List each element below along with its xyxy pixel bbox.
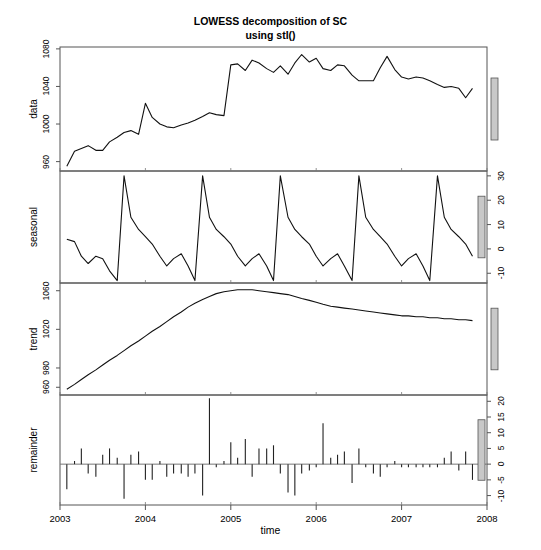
y-tick-label-remainder: 10 — [496, 428, 506, 437]
x-tick-label: 2004 — [135, 513, 156, 524]
y-tick-label-seasonal: 30 — [496, 171, 506, 180]
scale-reference-bar-remainder — [478, 420, 485, 481]
stl-decomposition-figure: LOWESS decomposition of SC using stl() t… — [0, 0, 541, 550]
y-tick-label-remainder: 15 — [496, 412, 506, 421]
y-tick-label-trend: 980 — [41, 361, 51, 375]
y-tick-label-seasonal: 20 — [496, 195, 506, 204]
y-tick-label-data: 1000 — [41, 115, 51, 134]
y-tick-label-seasonal: 0 — [496, 247, 506, 252]
x-tick-label: 2007 — [391, 513, 412, 524]
series-line-trend — [67, 290, 473, 389]
panel-label-seasonal: seasonal — [28, 207, 39, 247]
x-tick-label: 2006 — [306, 513, 327, 524]
scale-reference-bar-data — [491, 78, 498, 140]
panel-frame-trend — [60, 283, 487, 395]
y-tick-label-trend: 1020 — [41, 320, 51, 339]
x-tick-label: 2008 — [476, 513, 497, 524]
x-tick-label: 2003 — [49, 513, 70, 524]
y-tick-label-remainder: 20 — [496, 397, 506, 406]
y-tick-label-trend: 960 — [41, 380, 51, 394]
panel-label-data: data — [28, 99, 39, 118]
y-tick-label-data: 1040 — [41, 77, 51, 96]
panel-frame-data — [60, 47, 487, 171]
x-axis-title: time — [0, 524, 541, 536]
series-line-seasonal — [67, 176, 473, 281]
scale-reference-bar-trend — [491, 308, 498, 370]
y-tick-label-data: 960 — [41, 155, 51, 169]
series-line-data — [67, 55, 473, 167]
panel-label-trend: trend — [28, 328, 39, 351]
y-tick-label-remainder: -5 — [496, 476, 506, 484]
y-tick-label-data: 1080 — [41, 39, 51, 58]
panel-label-remainder: remainder — [28, 427, 39, 472]
scale-reference-bar-seasonal — [478, 196, 485, 258]
y-tick-label-trend: 1060 — [41, 281, 51, 300]
y-tick-label-remainder: 0 — [496, 462, 506, 467]
plot-canvas — [0, 0, 541, 550]
y-tick-label-remainder: -10 — [496, 489, 506, 501]
y-tick-label-seasonal: -10 — [496, 267, 506, 279]
y-tick-label-remainder: 5 — [496, 446, 506, 451]
x-tick-label: 2005 — [220, 513, 241, 524]
y-tick-label-seasonal: 10 — [496, 220, 506, 229]
